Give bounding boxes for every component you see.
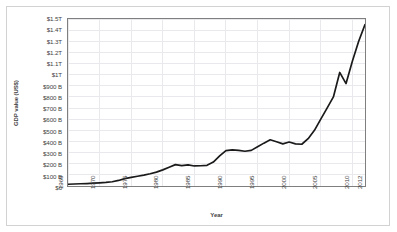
x-tick-label: 2010 xyxy=(343,176,350,189)
y-axis-tick-labels: $0$100 B$200 B$300 B$400 B$500 B$600 B$7… xyxy=(7,18,65,187)
x-tick-label: 1990 xyxy=(216,176,223,189)
x-tick-label: 2012 xyxy=(356,176,363,189)
plot-area xyxy=(67,18,366,187)
y-tick-label: $300 B xyxy=(43,150,62,157)
gdp-series-line xyxy=(68,19,365,186)
y-tick-label: $1T xyxy=(52,71,62,78)
y-tick-label: $1.4T xyxy=(47,26,62,33)
x-axis-tick-labels: 1965197019751980198519901995200020052010… xyxy=(67,189,366,213)
y-tick-label: $1.3T xyxy=(47,37,62,44)
x-tick-label: 1985 xyxy=(184,176,191,189)
y-tick-label: $1.5T xyxy=(47,15,62,22)
x-tick-label: 2005 xyxy=(311,176,318,189)
y-tick-label: $700 B xyxy=(43,105,62,112)
x-tick-label: 1995 xyxy=(247,176,254,189)
y-tick-label: $1.1T xyxy=(47,60,62,67)
chart-outer-frame: GDP value (US$) $0$100 B$200 B$300 B$400… xyxy=(6,6,390,226)
x-tick-label: 1970 xyxy=(88,176,95,189)
x-tick-label: 1980 xyxy=(152,176,159,189)
x-tick-label: 2000 xyxy=(279,176,286,189)
y-tick-label: $600 B xyxy=(43,116,62,123)
y-tick-label: $900 B xyxy=(43,82,62,89)
x-tick-label: 1975 xyxy=(120,176,127,189)
y-tick-label: $400 B xyxy=(43,138,62,145)
y-tick-label: $1.2T xyxy=(47,48,62,55)
y-tick-label: $800 B xyxy=(43,93,62,100)
x-tick-label: 1965 xyxy=(57,176,64,189)
gdp-line-chart: GDP value (US$) $0$100 B$200 B$300 B$400… xyxy=(7,7,391,227)
y-tick-label: $200 B xyxy=(43,161,62,168)
y-tick-label: $500 B xyxy=(43,127,62,134)
x-axis-title: Year xyxy=(67,212,366,218)
